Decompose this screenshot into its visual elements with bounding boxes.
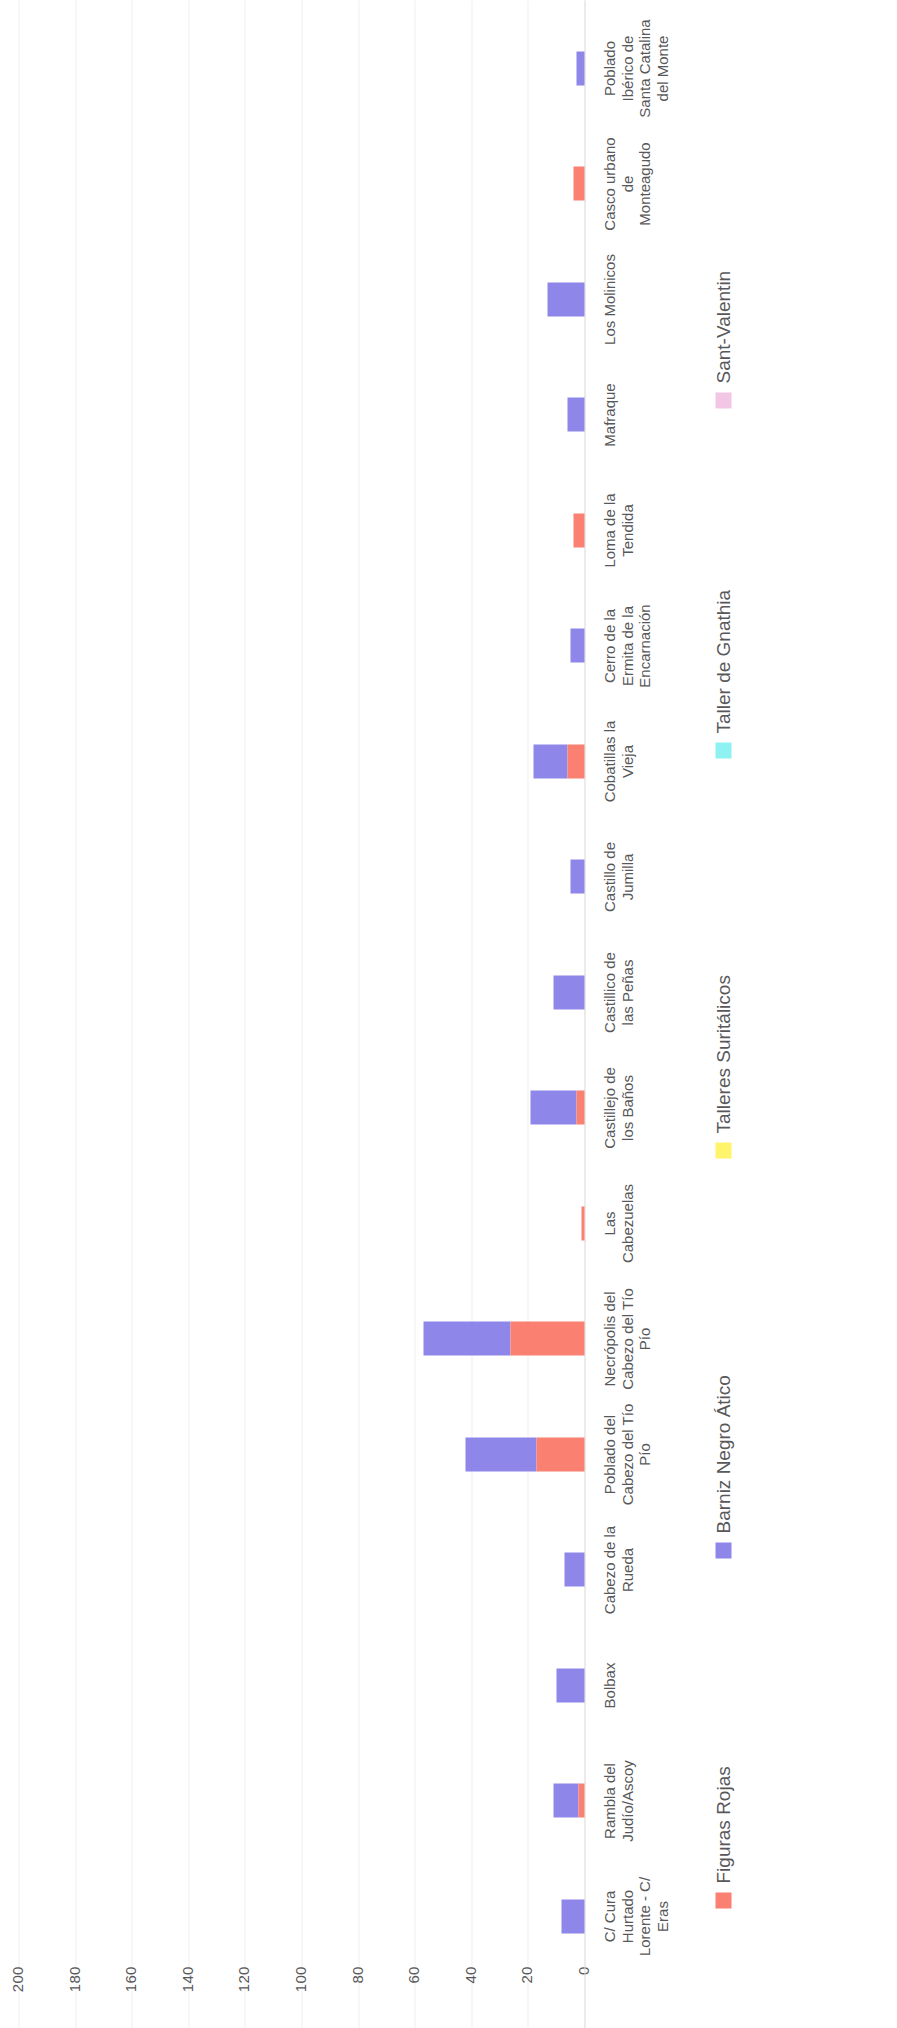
gridline [358,0,359,2028]
axis-tick-label: 160 [121,1966,138,1992]
bar-stack[interactable] [581,1206,584,1240]
gridline [414,0,415,2028]
gridline [18,0,19,2028]
axis-tick-label: 180 [65,1966,82,1992]
bar-segment[interactable] [547,282,584,316]
bar-segment[interactable] [573,513,584,547]
bar-stack[interactable] [547,282,584,316]
bar-segment[interactable] [553,1784,578,1818]
category-axis-label: Mafraque [600,363,618,467]
bar-segment[interactable] [567,398,584,432]
plot-area: 020406080100120140160180200C/ Cura Hurta… [0,0,640,2028]
gridline [188,0,189,2028]
gridline [301,0,302,2028]
axis-tick-label: 140 [178,1966,195,1992]
axis-tick-label: 20 [517,1966,534,1983]
gridline [471,0,472,2028]
category-axis-label: Poblado del Cabezo del Tío Pío [600,1402,653,1506]
bar-stack[interactable] [530,1091,584,1125]
gridline [527,0,528,2028]
bar-stack[interactable] [556,1668,584,1702]
category-axis-label: Cobatillas la Vieja [600,709,635,813]
bar-segment[interactable] [570,860,584,894]
category-axis-label: Las Cabezuelas [600,1171,635,1275]
bar-stack[interactable] [533,744,584,778]
axis-tick-label: 80 [348,1966,365,1983]
gridline [244,0,245,2028]
category-axis-label: Castillico de las Peñas [600,940,635,1044]
legend-swatch [715,392,731,408]
bar-segment[interactable] [564,1553,584,1587]
legend-item[interactable]: Figuras Rojas [712,1766,734,1908]
bar-segment[interactable] [573,167,584,201]
legend-item[interactable]: Sant-Valentin [712,270,734,408]
bar-stack[interactable] [570,629,584,663]
gridline [75,0,76,2028]
bar-segment[interactable] [465,1437,536,1471]
legend-swatch [715,1542,731,1558]
category-axis-label: Los Molinicos [600,247,618,351]
category-axis-label: Bolbax [600,1633,618,1737]
legend-label: Figuras Rojas [712,1766,734,1883]
legend-swatch [715,1892,731,1908]
category-axis-label: Loma de la Tendida [600,478,635,582]
axis-tick-label: 200 [8,1966,25,1992]
legend-label: Barniz Negro Ático [712,1375,734,1533]
chart-screenshot: 020406080100120140160180200C/ Cura Hurta… [0,0,897,2028]
bar-stack[interactable] [573,167,584,201]
category-axis-label: Casco urbano de Monteagudo [600,132,653,236]
bar-segment[interactable] [578,1784,584,1818]
bar-segment[interactable] [576,1091,584,1125]
stacked-bar-chart: 020406080100120140160180200C/ Cura Hurta… [0,0,897,2028]
axis-tick-label: 60 [404,1966,421,1983]
legend-item[interactable]: Taller de Gnathia [712,589,734,758]
bar-segment[interactable] [570,629,584,663]
bar-segment[interactable] [561,1899,584,1933]
legend-swatch [715,742,731,758]
axis-tick-label: 100 [291,1966,308,1992]
bar-stack[interactable] [567,398,584,432]
category-axis-label: Castillo de Jumilla [600,825,635,929]
bar-stack[interactable] [561,1899,584,1933]
bar-segment[interactable] [423,1322,511,1356]
category-axis-label: Castillejo de los Baños [600,1056,635,1160]
axis-tick-label: 120 [234,1966,251,1992]
legend-item[interactable]: Barniz Negro Ático [712,1375,734,1558]
bar-stack[interactable] [465,1437,584,1471]
bar-stack[interactable] [573,513,584,547]
chart-legend: Figuras RojasBarniz Negro ÁticoTalleres … [700,0,760,2028]
category-axis-label: Cerro de la Ermita de la Encarnación [600,594,653,698]
legend-item[interactable]: Talleres Suritálicos [712,975,734,1158]
bar-stack[interactable] [553,1784,584,1818]
category-axis-label: Rambla del Judío/Ascoy [600,1749,635,1853]
bar-stack[interactable] [576,51,584,85]
gridline [131,0,132,2028]
bar-stack[interactable] [564,1553,584,1587]
legend-label: Talleres Suritálicos [712,975,734,1133]
bar-segment[interactable] [556,1668,584,1702]
category-axis-label: Poblado Ibérico de Santa Catalina del Mo… [600,16,671,120]
bar-segment[interactable] [533,744,567,778]
legend-label: Taller de Gnathia [712,589,734,733]
bar-segment[interactable] [553,975,584,1009]
legend-label: Sant-Valentin [712,270,734,383]
bar-stack[interactable] [553,975,584,1009]
category-axis-label: Necrópolis del Cabezo del Tío Pío [600,1287,653,1391]
axis-tick-label: 40 [461,1966,478,1983]
bar-segment[interactable] [567,744,584,778]
bar-segment[interactable] [581,1206,584,1240]
category-axis-label: C/ Cura Hurtado Lorente - C/ Eras [600,1864,671,1968]
bar-segment[interactable] [530,1091,575,1125]
axis-tick-label: 0 [574,1966,591,1975]
bar-stack[interactable] [423,1322,584,1356]
bar-segment[interactable] [536,1437,584,1471]
bar-stack[interactable] [570,860,584,894]
legend-swatch [715,1142,731,1158]
bar-segment[interactable] [510,1322,584,1356]
bar-segment[interactable] [576,51,584,85]
category-axis-label: Cabezo de la Rueda [600,1518,635,1622]
